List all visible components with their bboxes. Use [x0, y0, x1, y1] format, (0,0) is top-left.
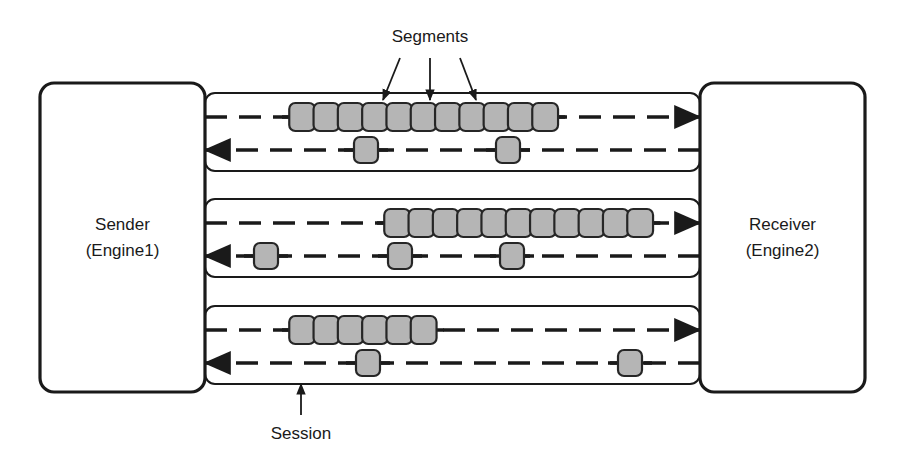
segment-body	[338, 316, 364, 344]
endpoint-title: Sender	[95, 215, 150, 234]
segment	[354, 137, 378, 163]
endpoint-box[interactable]	[40, 83, 205, 392]
segment	[289, 103, 315, 131]
segment-body	[362, 316, 388, 344]
segment	[289, 316, 315, 344]
segment-body	[314, 103, 340, 131]
segment-body	[496, 137, 520, 163]
segment-body	[500, 243, 524, 269]
segment	[603, 209, 629, 237]
segment-body	[356, 350, 380, 376]
segment-body	[254, 243, 278, 269]
network-session-diagram: Sender(Engine1)Receiver(Engine2) Segment…	[0, 0, 905, 471]
segment	[362, 316, 388, 344]
segment	[508, 103, 534, 131]
segment	[314, 103, 340, 131]
segment	[384, 209, 410, 237]
segment-body	[506, 209, 532, 237]
segment	[409, 209, 435, 237]
segment	[388, 243, 412, 269]
segment	[532, 103, 558, 131]
segment-body	[289, 103, 315, 131]
segment	[362, 103, 388, 131]
segment-body	[338, 103, 364, 131]
segment	[386, 316, 412, 344]
segment-body	[459, 103, 485, 131]
segment	[314, 316, 340, 344]
segment-body	[314, 316, 340, 344]
segment	[386, 103, 412, 131]
endpoint-box[interactable]	[700, 83, 865, 392]
session-1[interactable]	[205, 93, 700, 171]
segment	[530, 209, 556, 237]
segment-body	[388, 243, 412, 269]
endpoint-subtitle: (Engine1)	[86, 241, 160, 260]
segment	[457, 209, 483, 237]
session-annotation-label: Session	[271, 424, 331, 443]
segment	[338, 103, 364, 131]
session-annotation: Session	[271, 384, 331, 443]
sessions-layer	[205, 93, 700, 384]
segment	[411, 103, 437, 131]
diagram-canvas: Sender(Engine1)Receiver(Engine2) Segment…	[0, 0, 905, 471]
segment-body	[530, 209, 556, 237]
segment	[618, 350, 642, 376]
segment-body	[362, 103, 388, 131]
endpoint-subtitle: (Engine2)	[746, 241, 820, 260]
segment	[506, 209, 532, 237]
session-3[interactable]	[205, 306, 700, 384]
segment-body	[409, 209, 435, 237]
segment	[627, 209, 653, 237]
segment-body	[532, 103, 558, 131]
receiver-node[interactable]: Receiver(Engine2)	[700, 83, 865, 392]
segment-body	[289, 316, 315, 344]
segments-annotation-label: Segments	[392, 27, 469, 46]
endpoint-title: Receiver	[749, 215, 816, 234]
segments-annotation: Segments	[383, 27, 476, 100]
segment-body	[627, 209, 653, 237]
segment	[496, 137, 520, 163]
segment-body	[411, 316, 437, 344]
segment	[411, 316, 437, 344]
segment-body	[386, 316, 412, 344]
segment-body	[411, 103, 437, 131]
segment-body	[508, 103, 534, 131]
sender-node[interactable]: Sender(Engine1)	[40, 83, 205, 392]
segment-body	[554, 209, 580, 237]
segment-body	[579, 209, 605, 237]
segment	[481, 209, 507, 237]
segment	[433, 209, 459, 237]
segment-body	[433, 209, 459, 237]
segment	[254, 243, 278, 269]
segment-body	[435, 103, 461, 131]
segment	[554, 209, 580, 237]
session-2[interactable]	[205, 199, 700, 277]
segment-body	[386, 103, 412, 131]
segment-body	[457, 209, 483, 237]
segment-body	[603, 209, 629, 237]
segment	[338, 316, 364, 344]
segment-body	[484, 103, 510, 131]
segment	[500, 243, 524, 269]
segment	[484, 103, 510, 131]
segment	[579, 209, 605, 237]
segment-body	[354, 137, 378, 163]
segment	[459, 103, 485, 131]
segment	[356, 350, 380, 376]
segment-body	[618, 350, 642, 376]
segment	[435, 103, 461, 131]
segment-body	[481, 209, 507, 237]
segment-body	[384, 209, 410, 237]
